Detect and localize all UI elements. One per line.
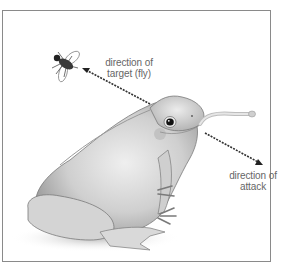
label-line: attack xyxy=(228,181,278,192)
fly-icon xyxy=(52,49,82,83)
arrow-attack xyxy=(205,133,258,162)
frog-illustration xyxy=(0,0,281,273)
label-line: target (fly) xyxy=(95,68,163,79)
arrowhead-icon xyxy=(255,159,263,165)
label-line: direction of xyxy=(228,170,278,181)
frog-icon xyxy=(28,96,204,250)
target-direction-label: direction of target (fly) xyxy=(95,57,163,79)
attack-direction-label: direction of attack xyxy=(228,170,278,192)
label-line: direction of xyxy=(95,57,163,68)
eye-icon xyxy=(166,119,174,126)
